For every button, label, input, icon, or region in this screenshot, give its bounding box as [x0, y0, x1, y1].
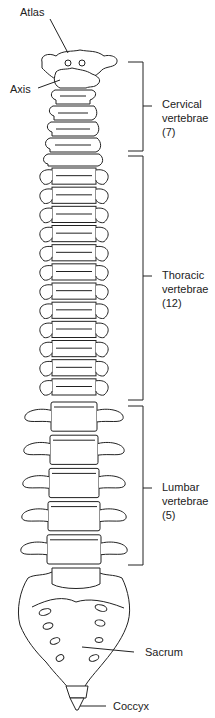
cervical-label-line2: vertebrae: [162, 111, 208, 125]
sacrum-label: Sacrum: [145, 645, 183, 659]
lumbar-label: Lumbar vertebrae (5): [162, 480, 208, 522]
lumbar-label-line1: Lumbar: [162, 480, 208, 494]
atlas-leader: [50, 19, 68, 53]
sacrum: [18, 568, 129, 688]
lumbar-label-count: (5): [162, 508, 208, 522]
cervical-label-count: (7): [162, 125, 208, 139]
coccyx-label: Coccyx: [113, 699, 149, 713]
lumbar-label-line2: vertebrae: [162, 494, 208, 508]
cervical-label: Cervical vertebrae (7): [162, 97, 208, 139]
lumbar-bracket: [128, 406, 152, 565]
lumbar-vertebrae: [21, 402, 127, 564]
thoracic-vertebrae: [40, 168, 108, 395]
axis-label: Axis: [10, 82, 31, 96]
thoracic-label-line2: vertebrae: [162, 282, 208, 296]
thoracic-bracket: [128, 156, 152, 400]
thoracic-label: Thoracic vertebrae (12): [162, 268, 208, 310]
cervical-label-line1: Cervical: [162, 97, 208, 111]
cervical-bracket: [128, 62, 152, 151]
thoracic-label-line1: Thoracic: [162, 268, 208, 282]
atlas-label: Atlas: [20, 5, 44, 19]
cervical-vertebrae: [44, 90, 103, 166]
thoracic-label-count: (12): [162, 296, 208, 310]
